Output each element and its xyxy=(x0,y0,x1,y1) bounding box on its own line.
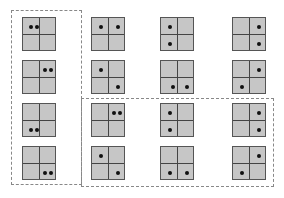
dot-marker xyxy=(168,171,172,175)
dot-marker xyxy=(29,128,33,132)
dot-marker xyxy=(118,111,122,115)
dot-marker xyxy=(240,171,244,175)
dot-marker xyxy=(185,85,189,89)
grid-divider-horizontal xyxy=(161,77,193,78)
grid-divider-horizontal xyxy=(23,34,55,35)
grid-tile xyxy=(91,103,125,137)
grid-tile xyxy=(160,103,194,137)
grid-tile xyxy=(160,17,194,51)
dot-marker xyxy=(35,128,39,132)
grid-tile xyxy=(232,60,266,94)
grid-tile xyxy=(91,17,125,51)
grid-tile xyxy=(232,17,266,51)
dot-marker xyxy=(168,42,172,46)
dot-marker xyxy=(43,68,47,72)
grid-divider-horizontal xyxy=(92,77,124,78)
grid-tile xyxy=(160,146,194,180)
dot-marker xyxy=(116,171,120,175)
grid-divider-horizontal xyxy=(233,34,265,35)
dot-marker xyxy=(49,171,53,175)
grid-divider-horizontal xyxy=(92,120,124,121)
grid-tile xyxy=(91,146,125,180)
grid-divider-horizontal xyxy=(233,120,265,121)
dot-marker xyxy=(257,25,261,29)
grid-tile xyxy=(232,146,266,180)
grid-tile xyxy=(22,60,56,94)
dot-marker xyxy=(29,25,33,29)
dot-marker xyxy=(43,171,47,175)
grid-divider-horizontal xyxy=(23,77,55,78)
grid-divider-horizontal xyxy=(161,163,193,164)
grid-divider-horizontal xyxy=(23,120,55,121)
dot-marker xyxy=(168,128,172,132)
dot-marker xyxy=(257,128,261,132)
grid-tile xyxy=(232,103,266,137)
dot-marker xyxy=(99,68,103,72)
grid-divider-horizontal xyxy=(23,163,55,164)
dot-marker xyxy=(257,154,261,158)
grid-divider-horizontal xyxy=(161,120,193,121)
grid-divider-horizontal xyxy=(233,77,265,78)
dot-marker xyxy=(240,85,244,89)
grid-tile xyxy=(160,60,194,94)
grid-tile xyxy=(22,146,56,180)
dot-marker xyxy=(49,68,53,72)
dot-marker xyxy=(257,68,261,72)
dot-marker xyxy=(185,171,189,175)
grid-divider-horizontal xyxy=(92,163,124,164)
grid-tile xyxy=(91,60,125,94)
dot-marker xyxy=(35,25,39,29)
dot-marker xyxy=(171,85,175,89)
dot-marker xyxy=(116,85,120,89)
dot-marker xyxy=(99,25,103,29)
dot-marker xyxy=(257,42,261,46)
dot-marker xyxy=(112,111,116,115)
dot-marker xyxy=(257,111,261,115)
dot-marker xyxy=(116,25,120,29)
grid-divider-horizontal xyxy=(92,34,124,35)
dot-marker xyxy=(168,25,172,29)
grid-tile xyxy=(22,103,56,137)
grid-divider-horizontal xyxy=(233,163,265,164)
grid-divider-horizontal xyxy=(161,34,193,35)
dot-marker xyxy=(99,154,103,158)
dot-marker xyxy=(168,111,172,115)
grid-tile xyxy=(22,17,56,51)
